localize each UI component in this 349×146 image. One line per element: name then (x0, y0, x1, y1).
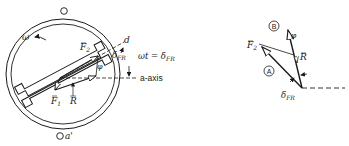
circle-b-label: B (272, 23, 277, 30)
delta-arrow-top-icon (121, 48, 123, 53)
angle-tick-right-icon (301, 74, 307, 75)
f2-label: F2 (79, 42, 90, 53)
rotor-body (15, 41, 112, 107)
equation-label: ωt = δFR (138, 51, 175, 62)
a-axis-label: a-axis (140, 73, 163, 83)
phi-label: φ (97, 62, 103, 71)
r-label-right: R (299, 52, 307, 62)
delta-fr-label-right: δFR (281, 90, 295, 101)
f2-label-right: F2 (246, 40, 257, 51)
f1-label: F1 (50, 96, 61, 107)
machine-phasor-diagram: a' d a-axis δFR ωt = δFR ω F2 F1 R (0, 0, 349, 146)
circle-a-label: A (267, 68, 272, 75)
r-label: R (69, 96, 77, 106)
stator-slot-top (61, 8, 68, 15)
slot-a-prime-label: a' (65, 131, 73, 141)
d-axis-label: d (124, 35, 130, 45)
left-figure: a' d a-axis δFR ωt = δFR ω F2 F1 R (6, 8, 175, 141)
rotation-arrow-icon (35, 37, 46, 40)
stator-slot-bottom (57, 133, 64, 140)
phi-label-right: φ (291, 31, 297, 40)
omega-label: ω (22, 32, 30, 42)
right-figure: B A φ F2 R δFR (246, 21, 345, 101)
delta-fr-label: δFR (112, 50, 126, 61)
